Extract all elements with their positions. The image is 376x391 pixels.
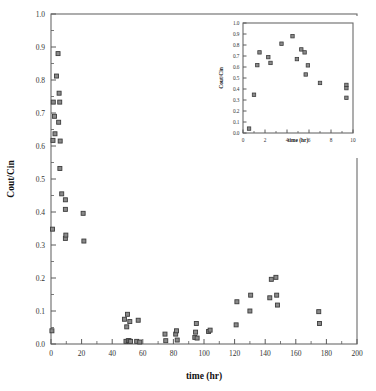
x-tick-label: 180	[321, 349, 333, 358]
y-tick-label: 0.1	[36, 307, 46, 316]
data-point-marker	[122, 317, 126, 321]
data-point-marker	[174, 329, 178, 333]
data-point-marker	[58, 100, 62, 104]
inset-data-point-marker	[304, 73, 307, 76]
inset-x-tick-label: 10	[350, 137, 356, 143]
data-point-marker	[60, 192, 64, 196]
data-point-marker	[163, 332, 167, 336]
data-point-marker	[53, 114, 57, 118]
x-tick-label: 140	[260, 349, 272, 358]
inset-y-tick-label: 0.7	[233, 53, 240, 59]
data-point-marker	[53, 132, 57, 136]
inset-data-point-marker	[252, 93, 255, 96]
data-point-marker	[175, 338, 179, 342]
y-tick-label: 0.5	[36, 175, 46, 184]
inset-plot: 0246810 0.00.10.20.30.40.50.60.70.80.91.…	[210, 16, 370, 158]
data-point-marker	[136, 318, 140, 322]
data-point-marker	[82, 239, 86, 243]
inset-x-axis-title: time (hr)	[288, 137, 309, 144]
y-tick-label: 0.2	[36, 274, 46, 283]
y-tick-label: 0.4	[36, 208, 46, 217]
y-tick-label: 0.0	[36, 340, 46, 349]
inset-y-tick-label: 0.5	[233, 75, 240, 81]
y-tick-label: 0.6	[36, 142, 46, 151]
x-tick-label: 100	[198, 349, 210, 358]
data-point-marker	[64, 233, 68, 237]
inset-data-point-marker	[267, 55, 270, 58]
data-point-marker	[51, 138, 55, 142]
inset-data-point-marker	[269, 61, 272, 64]
inset-data-point-marker	[300, 48, 303, 51]
inset-x-tick-label: 2	[264, 137, 267, 143]
inset-data-point-marker	[306, 64, 309, 67]
inset-y-tick-label: 0.8	[233, 42, 240, 48]
inset-data-point-marker	[291, 35, 294, 38]
x-tick-label: 80	[170, 349, 178, 358]
data-point-marker	[234, 323, 238, 327]
data-point-marker	[125, 325, 129, 329]
inset-data-point-marker	[247, 127, 250, 130]
y-tick-label: 1.0	[36, 10, 46, 19]
x-tick-label: 160	[290, 349, 302, 358]
data-point-marker	[55, 74, 59, 78]
inset-y-axis-title: Cout/Cin	[218, 67, 224, 88]
data-point-marker	[51, 227, 55, 231]
data-point-marker	[317, 310, 321, 314]
data-point-marker	[208, 328, 212, 332]
x-tick-label: 120	[229, 349, 241, 358]
data-point-marker	[195, 336, 199, 340]
data-point-marker	[58, 166, 62, 170]
data-point-marker	[56, 52, 60, 56]
data-point-marker	[235, 300, 239, 304]
inset-y-tick-label: 0.0	[233, 130, 240, 136]
y-tick-label: 0.9	[36, 43, 46, 52]
y-tick-label: 0.8	[36, 76, 46, 85]
inset-data-point-marker	[295, 57, 298, 60]
data-point-marker	[318, 322, 322, 326]
data-point-marker	[57, 91, 61, 95]
inset-y-tick-label: 1.0	[233, 20, 240, 26]
data-point-marker	[58, 139, 62, 143]
inset-data-point-marker	[318, 81, 321, 84]
data-point-marker	[57, 120, 61, 124]
data-point-marker	[248, 309, 252, 313]
inset-y-tick-label: 0.3	[233, 97, 240, 103]
data-point-marker	[63, 198, 67, 202]
scatter-chart-figure: 020406080100120140160180200 0.00.10.20.3…	[0, 0, 376, 391]
data-point-marker	[249, 293, 253, 297]
inset-y-tick-label: 0.2	[233, 108, 240, 114]
x-tick-label: 0	[49, 349, 53, 358]
x-tick-label: 40	[108, 349, 116, 358]
inset-data-point-marker	[256, 63, 259, 66]
data-point-marker	[269, 277, 273, 281]
y-tick-label: 0.7	[36, 109, 46, 118]
inset-y-tick-label: 0.4	[233, 86, 240, 92]
chart-canvas: 020406080100120140160180200 0.00.10.20.3…	[0, 0, 376, 391]
inset-data-point-marker	[303, 51, 306, 54]
data-point-marker	[129, 339, 133, 343]
data-point-marker	[275, 303, 279, 307]
inset-x-tick-label: 0	[242, 137, 245, 143]
inset-y-tick-label: 0.6	[233, 64, 240, 70]
data-point-marker	[275, 293, 279, 297]
data-point-marker	[164, 339, 168, 343]
x-tick-label: 200	[351, 349, 363, 358]
data-point-marker	[274, 275, 278, 279]
data-point-marker	[126, 312, 130, 316]
data-point-marker	[81, 211, 85, 215]
inset-data-point-marker	[345, 96, 348, 99]
x-tick-label: 60	[139, 349, 147, 358]
x-axis-title: time (hr)	[186, 371, 222, 382]
inset-data-point-marker	[345, 86, 348, 89]
data-point-marker	[128, 320, 132, 324]
data-point-marker	[50, 329, 54, 333]
data-point-marker	[268, 296, 272, 300]
inset-y-tick-label: 0.9	[233, 31, 240, 37]
inset-x-tick-label: 8	[330, 137, 333, 143]
y-axis-title: Cout/Cin	[6, 160, 16, 198]
x-tick-label: 20	[78, 349, 86, 358]
inset-data-point-marker	[280, 42, 283, 45]
inset-y-tick-label: 0.1	[233, 119, 240, 125]
data-point-marker	[138, 340, 142, 344]
data-point-marker	[51, 100, 55, 104]
